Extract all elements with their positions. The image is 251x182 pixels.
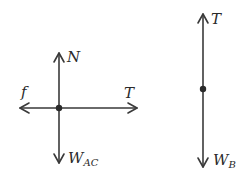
label-weight-b: WB	[213, 153, 236, 170]
body-b-point	[200, 86, 206, 92]
body-ac-point	[56, 105, 62, 111]
label-weight-ac: WAC	[68, 151, 98, 168]
label-tension-ac: T	[124, 86, 134, 101]
label-friction: f	[21, 85, 27, 100]
label-tension-b: T	[211, 12, 221, 27]
label-normal: N	[67, 50, 80, 65]
